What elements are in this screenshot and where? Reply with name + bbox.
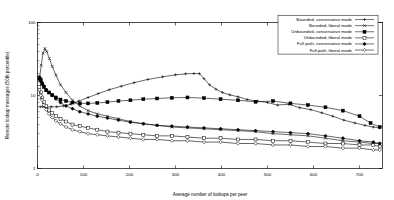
marker-plus <box>50 105 53 108</box>
marker-plus <box>364 124 367 127</box>
legend-label: Full path, conservative mode <box>297 41 353 46</box>
marker-square-filled <box>363 30 366 33</box>
marker-diamond-filled <box>78 110 81 113</box>
marker-square-open <box>170 134 173 137</box>
x-tick-label: 400 <box>218 172 226 177</box>
legend: Bounded, conservative modeBounded, liber… <box>278 16 378 55</box>
marker-square-filled <box>106 101 109 104</box>
legend-label: Unbounded, conservative mode <box>291 29 352 34</box>
marker-diamond-open <box>236 142 239 145</box>
marker-square-filled <box>289 102 292 105</box>
chart-figure: 0100200300400500600700110100Average numb… <box>0 0 394 200</box>
marker-diamond-open <box>271 143 274 146</box>
marker-square-open <box>306 141 309 144</box>
marker-cross <box>54 74 57 77</box>
y-tick-label: 10 <box>31 93 36 98</box>
marker-diamond-filled <box>106 116 109 119</box>
marker-square-filled <box>186 96 189 99</box>
marker-plus <box>133 81 136 84</box>
marker-square-open <box>156 134 159 137</box>
marker-square-open <box>203 137 206 140</box>
marker-square-filled <box>358 115 361 118</box>
marker-cross <box>59 83 62 86</box>
marker-square-open <box>289 139 292 142</box>
y-tick-label: 100 <box>28 20 36 25</box>
marker-square-filled <box>96 101 99 104</box>
marker-plus <box>228 93 231 96</box>
marker-square-open <box>186 136 189 139</box>
marker-diamond-open <box>170 139 173 142</box>
marker-plus <box>353 122 356 125</box>
marker-square-filled <box>369 122 372 125</box>
marker-plus <box>108 88 111 91</box>
marker-square-filled <box>324 106 327 109</box>
marker-plus <box>87 96 90 99</box>
marker-square-open <box>54 115 57 118</box>
marker-plus <box>309 108 312 111</box>
marker-diamond-open <box>155 138 158 141</box>
legend-label: Full path, liberal mode <box>310 48 353 53</box>
marker-square-open <box>59 117 62 120</box>
marker-square-filled <box>341 109 344 112</box>
marker-plus <box>331 115 334 118</box>
x-tick-label: 500 <box>264 172 272 177</box>
marker-square-open <box>87 126 90 129</box>
marker-cross <box>51 65 54 68</box>
marker-plus <box>342 119 345 122</box>
series-line <box>39 87 379 146</box>
legend-label: Unbounded, liberal mode <box>304 35 353 40</box>
marker-diamond-filled <box>71 107 74 110</box>
series-bounded-conservative-mode <box>39 72 381 129</box>
marker-square-filled <box>254 100 257 103</box>
series-line <box>39 49 379 144</box>
marker-plus <box>146 78 149 81</box>
marker-diamond-open <box>254 142 257 145</box>
marker-square-open <box>51 111 54 114</box>
marker-square-open <box>254 138 257 141</box>
marker-plus <box>184 72 187 75</box>
marker-square-filled <box>87 102 90 105</box>
marker-cross <box>43 47 46 50</box>
marker-diamond-open <box>71 128 74 131</box>
marker-plus <box>237 95 240 98</box>
x-tick-label: 600 <box>310 172 318 177</box>
marker-diamond-open <box>78 130 81 133</box>
marker-square-filled <box>378 126 381 129</box>
marker-plus <box>320 111 323 114</box>
marker-diamond-open <box>64 125 67 128</box>
marker-diamond-open <box>186 139 189 142</box>
marker-diamond-open <box>129 137 132 140</box>
x-tick-label: 100 <box>80 172 88 177</box>
marker-diamond-open <box>117 135 120 138</box>
marker-diamond-open <box>96 133 99 136</box>
x-tick-label: 0 <box>36 172 39 177</box>
marker-plus <box>55 105 58 108</box>
marker-square-filled <box>117 100 120 103</box>
marker-square-open <box>358 143 361 146</box>
marker-square-open <box>272 139 275 142</box>
marker-square-filled <box>203 97 206 100</box>
x-tick-label: 300 <box>172 172 180 177</box>
marker-cross <box>65 91 68 94</box>
x-tick-label: 200 <box>126 172 134 177</box>
marker-square-open <box>71 123 74 126</box>
marker-square-open <box>363 36 366 39</box>
marker-diamond-open <box>306 145 309 148</box>
marker-diamond-open <box>202 140 205 143</box>
marker-plus <box>161 75 164 78</box>
marker-diamond-open <box>378 148 381 151</box>
marker-square-filled <box>156 97 159 100</box>
marker-cross <box>45 50 48 53</box>
marker-square-open <box>117 131 120 134</box>
marker-plus <box>298 106 301 109</box>
series-line <box>39 77 379 144</box>
marker-square-filled <box>142 98 145 101</box>
series-line <box>40 74 379 128</box>
legend-label: Bounded, liberal mode <box>309 23 353 28</box>
marker-square-filled <box>65 100 68 103</box>
marker-square-filled <box>237 99 240 102</box>
marker-square-filled <box>306 104 309 107</box>
x-tick-label: 700 <box>356 172 364 177</box>
marker-cross <box>48 57 51 60</box>
marker-cross <box>87 109 90 112</box>
